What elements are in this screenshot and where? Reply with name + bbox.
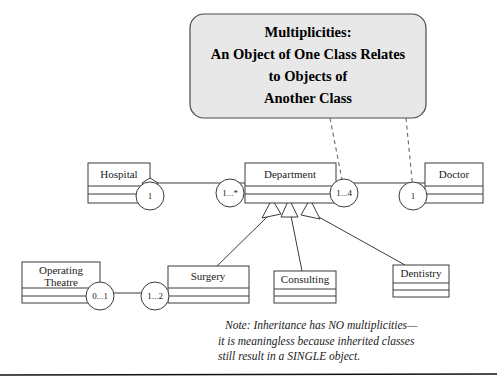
class-name-surgery: Surgery	[191, 270, 226, 282]
class-name-consulting: Consulting	[281, 273, 330, 285]
multiplicity-department-right-label: 1...4	[336, 188, 352, 198]
note-line-3: still result in a SINGLE object.	[218, 350, 360, 363]
class-name-dentistry: Dentistry	[401, 267, 442, 279]
callout-pointer-to-doctor	[406, 118, 413, 190]
page-bottom-rule	[0, 374, 497, 375]
callout-line-4: Another Class	[264, 90, 352, 106]
multiplicity-operating-theatre-label: 0...1	[92, 291, 108, 301]
diagram-page: Multiplicities: An Object of One Class R…	[0, 0, 497, 382]
callout-line-1: Multiplicities:	[265, 24, 352, 40]
inheritance-line-consulting	[291, 216, 302, 271]
class-name-operating-theatre-line2: Theatre	[44, 276, 78, 288]
multiplicity-hospital-label: 1	[148, 191, 153, 201]
class-name-department: Department	[264, 168, 316, 180]
class-name-doctor: Doctor	[439, 168, 470, 180]
multiplicity-surgery: 1...2	[141, 282, 169, 310]
callout-line-2: An Object of One Class Relates	[211, 46, 406, 62]
class-box-department[interactable]: Department	[245, 163, 336, 203]
inheritance-line-dentistry	[317, 216, 405, 265]
class-box-surgery[interactable]: Surgery	[168, 266, 249, 303]
class-name-operating-theatre-line1: Operating	[39, 264, 83, 276]
class-box-dentistry[interactable]: Dentistry	[393, 265, 449, 297]
class-box-doctor[interactable]: Doctor	[425, 163, 483, 203]
multiplicity-doctor: 1	[399, 182, 427, 210]
multiplicity-doctor-label: 1	[411, 191, 416, 201]
multiplicities-callout: Multiplicities: An Object of One Class R…	[190, 14, 426, 118]
multiplicity-department-left-label: 1...*	[222, 188, 238, 198]
note-line-2: it is meaningless because inherited clas…	[218, 335, 415, 348]
multiplicity-surgery-label: 1...2	[147, 291, 163, 301]
inheritance-note: Note: Inheritance has NO multiplicities—…	[218, 319, 418, 363]
class-name-hospital: Hospital	[100, 168, 137, 180]
multiplicity-operating-theatre: 0...1	[86, 282, 114, 310]
callout-line-3: to Objects of	[269, 68, 348, 84]
multiplicity-department-right: 1...4	[330, 179, 358, 207]
multiplicity-hospital: 1	[136, 182, 164, 210]
multiplicity-department-left: 1...*	[216, 179, 244, 207]
uml-class-diagram: Multiplicities: An Object of One Class R…	[0, 0, 497, 382]
note-line-1: Note: Inheritance has NO multiplicities—	[224, 319, 418, 332]
inheritance-line-surgery	[212, 216, 268, 271]
class-box-consulting[interactable]: Consulting	[274, 271, 336, 303]
